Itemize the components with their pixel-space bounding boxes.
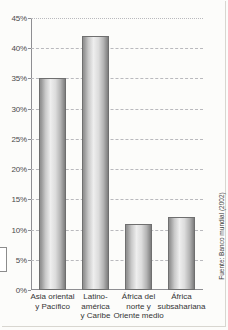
gridline: [31, 18, 203, 19]
bar: [39, 78, 66, 290]
x-axis-category-label: Áfricasubsahariana: [154, 292, 209, 311]
source-note-container: Fuente: Banco mundial (2002): [214, 176, 228, 296]
y-axis-tick-label: 40%: [12, 44, 27, 53]
bar: [82, 36, 109, 290]
y-axis-tick-mark: [28, 230, 31, 231]
figure-page: 45%40%35%30%25%20%15%10%5%0% Asia orient…: [0, 0, 228, 330]
y-axis-line: [31, 18, 32, 290]
margin-artifact-box: [0, 247, 7, 272]
bar: [168, 217, 195, 290]
category-label-line: Oriente medio: [111, 311, 166, 321]
y-axis-tick-label: 15%: [12, 195, 27, 204]
y-axis-tick-mark: [28, 78, 31, 79]
y-axis-tick-mark: [28, 139, 31, 140]
y-axis-tick-label: 30%: [12, 104, 27, 113]
y-axis-tick-label: 45%: [12, 14, 27, 23]
plot-area: 45%40%35%30%25%20%15%10%5%0%: [31, 18, 203, 290]
gridline: [31, 48, 203, 49]
y-axis-tick-label: 20%: [12, 165, 27, 174]
y-axis-tick-label: 35%: [12, 74, 27, 83]
source-note: Fuente: Banco mundial (2002): [218, 192, 225, 279]
y-axis-tick-mark: [28, 48, 31, 49]
y-axis-tick-label: 25%: [12, 134, 27, 143]
y-axis-tick-mark: [28, 199, 31, 200]
y-axis-tick-label: 10%: [12, 225, 27, 234]
y-axis-tick-mark: [28, 290, 31, 291]
y-axis-tick-mark: [28, 260, 31, 261]
category-label-line: África: [154, 292, 209, 302]
y-axis-tick-mark: [28, 18, 31, 19]
x-axis-category-labels: Asia orientaly PacíficoLatino-américay C…: [31, 292, 203, 326]
y-axis-tick-label: 5%: [16, 255, 27, 264]
y-axis-tick-mark: [28, 109, 31, 110]
y-axis-tick-mark: [28, 169, 31, 170]
bar: [125, 224, 152, 290]
category-label-line: subsahariana: [154, 302, 209, 312]
